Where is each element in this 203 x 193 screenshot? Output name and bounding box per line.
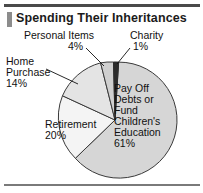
slice-value-pay-off: 61%	[114, 138, 135, 150]
pie-chart-figure: Spending Their Inheritances Personal Ite…	[0, 0, 203, 193]
leader-line-charity	[117, 48, 130, 64]
slice-value-retirement: 20%	[45, 130, 66, 142]
leader-line-personal-items	[86, 48, 104, 66]
slice-value-home-purchase: 14%	[6, 78, 27, 90]
slice-value-personal-items: 4%	[68, 41, 83, 53]
slice-value-charity: 1%	[133, 41, 148, 53]
leader-line-home-purchase	[46, 69, 78, 84]
slice-label-personal-items: Personal Items	[24, 30, 94, 42]
